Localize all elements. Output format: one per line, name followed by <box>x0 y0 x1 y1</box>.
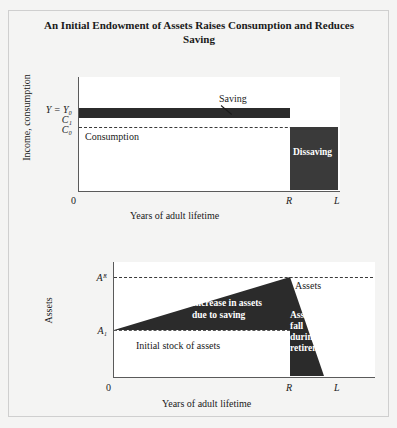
label-initial-stock: Initial stock of assets <box>136 340 220 351</box>
label-increase-line1: Increase in assets <box>192 298 262 308</box>
x-tick-zero-bottom: 0 <box>106 382 111 393</box>
x-tick-r-bottom: R <box>286 382 292 393</box>
line-a1-level <box>114 330 290 331</box>
y-tick-a1: A₁ <box>61 325 107 336</box>
label-fall-line3: during <box>290 332 317 342</box>
x-axis-title-bottom: Years of adult lifetime <box>162 398 251 409</box>
plot-area-bottom: Increase in assets due to saving Initial… <box>113 262 375 378</box>
chart-assets: Assets Aᴿ A₁ Increase in assets due to s… <box>0 0 397 428</box>
line-ar-level <box>114 277 373 278</box>
label-assets-fall: Assets fall during retirement <box>290 310 344 354</box>
label-assets-peak: Assets <box>295 280 321 291</box>
label-increase-line2: due to saving <box>192 310 245 320</box>
label-fall-line4: retirement <box>290 343 333 353</box>
label-fall-line2: fall <box>290 321 303 331</box>
figure-container: An Initial Endowment of Assets Raises Co… <box>0 0 397 428</box>
x-tick-l-bottom: L <box>334 382 340 393</box>
label-fall-line1: Assets <box>290 310 315 320</box>
label-increase-in-assets: Increase in assets due to saving <box>192 297 302 321</box>
y-axis-title-bottom: Assets <box>43 266 54 356</box>
y-tick-ar: Aᴿ <box>61 272 107 283</box>
